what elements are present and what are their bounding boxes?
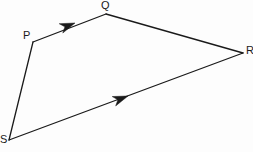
edge-pq — [33, 14, 106, 42]
edge-ps — [9, 42, 33, 140]
vertex-label-q: Q — [101, 0, 110, 11]
vertex-label-p: P — [23, 30, 30, 41]
arrowheads-group — [59, 23, 128, 106]
vertex-label-r: R — [246, 45, 253, 56]
diagram-canvas: P Q R S — [0, 0, 253, 152]
quadrilateral-figure — [0, 0, 253, 152]
edges-group — [9, 14, 243, 140]
vertex-label-s: S — [0, 134, 7, 145]
edge-qr — [106, 14, 243, 53]
